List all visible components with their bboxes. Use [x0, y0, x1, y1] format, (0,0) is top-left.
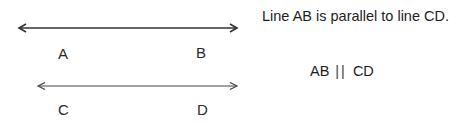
point-label-a: A: [58, 46, 68, 61]
parallel-notation: AB||CD: [310, 63, 374, 79]
parallel-symbol: ||: [335, 63, 347, 79]
parallel-statement: Line AB is parallel to line CD.: [262, 8, 449, 24]
point-label-d: D: [197, 102, 208, 117]
notation-right: CD: [353, 63, 374, 79]
line-cd: [38, 83, 237, 90]
point-label-b: B: [196, 45, 206, 60]
point-label-c: C: [58, 102, 69, 117]
notation-left: AB: [310, 63, 329, 79]
line-ab: [19, 24, 237, 32]
